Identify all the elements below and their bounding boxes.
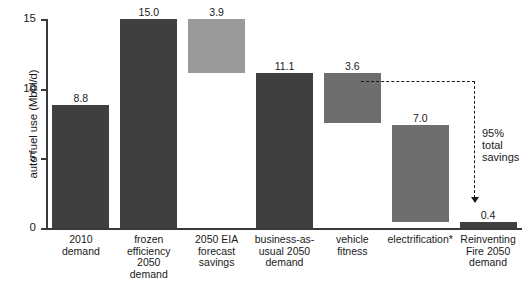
bar-value-label-3: 11.1 [255,60,315,72]
y-tick-5 [41,158,46,160]
bar-1[interactable] [120,19,177,228]
bar-6[interactable] [460,222,517,228]
y-tick-15 [41,19,46,21]
y-tick-label-15: 15 [4,12,36,24]
x-axis-category-label-4: vehicle fitness [314,234,390,257]
annotation-savings-text: 95% total savings [482,127,519,164]
x-axis-spine [46,228,522,230]
x-axis-category-label-6: Reinventing Fire 2050 demand [450,234,526,269]
x-axis-category-label-1: frozen efficiency 2050 demand [111,234,187,280]
y-tick-0 [41,228,46,230]
y-tick-label-10: 10 [4,82,36,94]
y-tick-label-5: 5 [4,151,36,163]
y-tick-label-0: 0 [4,221,36,233]
y-tick-10 [41,89,46,91]
bar-value-label-1: 15.0 [119,6,179,18]
bar-2[interactable] [188,19,245,73]
y-axis-label: auto fuel use (Mbbl/d) [27,29,39,219]
annotation-arrow-icon [471,197,479,203]
bar-5[interactable] [392,125,449,223]
x-axis-category-label-5: electrification* [382,234,458,246]
bar-0[interactable] [52,105,109,228]
y-axis-spine [46,19,48,229]
bar-value-label-4: 3.6 [322,60,382,72]
x-axis-category-label-2: 2050 EIA forecast savings [179,234,255,269]
bar-value-label-2: 3.9 [187,6,247,18]
bar-value-label-0: 8.8 [51,92,111,104]
bar-value-label-5: 7.0 [390,112,450,124]
bar-value-label-6: 0.4 [458,209,518,221]
bar-chart-figure: auto fuel use (Mbbl/d) 0 5 10 15 8.82010… [0,0,529,283]
x-axis-category-label-0: 2010 demand [43,234,119,257]
bar-3[interactable] [256,73,313,228]
annotation-dashed-vertical [474,81,475,198]
annotation-dashed-horizontal [361,81,475,82]
x-axis-category-label-3: business-as- usual 2050 demand [247,234,323,269]
